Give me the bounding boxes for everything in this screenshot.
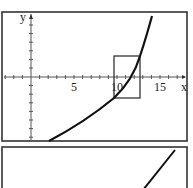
bottom-panel-frame — [2, 147, 187, 188]
y-axis-label: y — [20, 10, 26, 24]
x-tick-label-5: 5 — [71, 80, 77, 94]
chart-canvas: y x 5 10 15 — [0, 0, 193, 188]
x-tick-label-15: 15 — [154, 80, 166, 94]
x-axis-label: x — [181, 80, 187, 94]
